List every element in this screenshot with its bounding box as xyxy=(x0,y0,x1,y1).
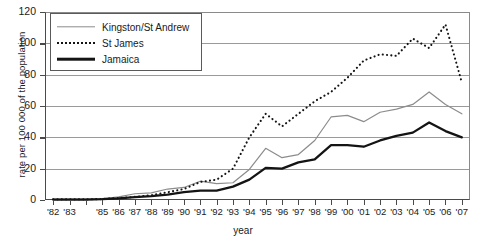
x-tick-mark xyxy=(135,200,136,205)
x-tick-mark xyxy=(184,200,185,205)
x-tick-mark xyxy=(429,200,430,205)
legend-label-stjames: St James xyxy=(102,38,144,49)
x-tick-label: '07 xyxy=(449,206,475,217)
legend-item-jamaica: Jamaica xyxy=(57,51,195,67)
x-tick-mark xyxy=(266,200,267,205)
x-tick-mark xyxy=(70,200,71,205)
legend-label-kingston: Kingston/St Andrew xyxy=(102,22,189,33)
x-tick-mark xyxy=(233,200,234,205)
x-tick-mark xyxy=(86,200,87,205)
series-line-jamaica xyxy=(53,122,462,199)
y-tick-label: 0 xyxy=(2,194,36,204)
y-tick-label: 80 xyxy=(2,69,36,79)
x-tick-mark xyxy=(217,200,218,205)
x-tick-mark xyxy=(282,200,283,205)
legend-label-jamaica: Jamaica xyxy=(102,54,139,65)
x-tick-mark xyxy=(380,200,381,205)
legend-item-kingston: Kingston/St Andrew xyxy=(57,19,195,35)
x-tick-mark xyxy=(168,200,169,205)
x-tick-mark xyxy=(315,200,316,205)
x-tick-mark xyxy=(249,200,250,205)
x-tick-mark xyxy=(102,200,103,205)
line-chart: rate per 100 000 of the population 12010… xyxy=(0,0,486,243)
series-line-kingston-st-andrew xyxy=(53,92,462,199)
y-tick-label: 20 xyxy=(2,163,36,173)
x-tick-mark xyxy=(413,200,414,205)
y-tick-label: 100 xyxy=(2,37,36,47)
x-tick-mark xyxy=(462,200,463,205)
x-tick-mark xyxy=(151,200,152,205)
y-tick-mark xyxy=(40,200,45,201)
x-axis-title: year xyxy=(0,225,486,236)
x-tick-mark xyxy=(347,200,348,205)
solid-thick-line-icon xyxy=(57,54,95,64)
dotted-line-icon xyxy=(57,38,95,48)
x-tick-mark xyxy=(298,200,299,205)
x-tick-mark xyxy=(364,200,365,205)
y-tick-label: 120 xyxy=(2,6,36,16)
y-tick-label: 40 xyxy=(2,131,36,141)
x-tick-mark xyxy=(200,200,201,205)
x-tick-mark xyxy=(445,200,446,205)
x-tick-label: '83 xyxy=(57,206,83,217)
y-tick-label: 60 xyxy=(2,100,36,110)
chart-legend: Kingston/St Andrew St James Jamaica xyxy=(50,13,202,71)
x-tick-mark xyxy=(331,200,332,205)
legend-item-stjames: St James xyxy=(57,35,195,51)
x-tick-mark xyxy=(119,200,120,205)
x-tick-mark xyxy=(53,200,54,205)
x-tick-mark xyxy=(396,200,397,205)
solid-thin-line-icon xyxy=(57,22,95,32)
